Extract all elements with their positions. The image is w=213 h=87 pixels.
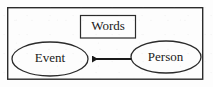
diagram-svg [0, 0, 213, 87]
person-ellipse-label: Person [131, 50, 200, 63]
diagram-canvas: Words Event Person [0, 0, 213, 87]
event-ellipse-label: Event [12, 51, 88, 64]
words-box-label: Words [80, 19, 136, 32]
